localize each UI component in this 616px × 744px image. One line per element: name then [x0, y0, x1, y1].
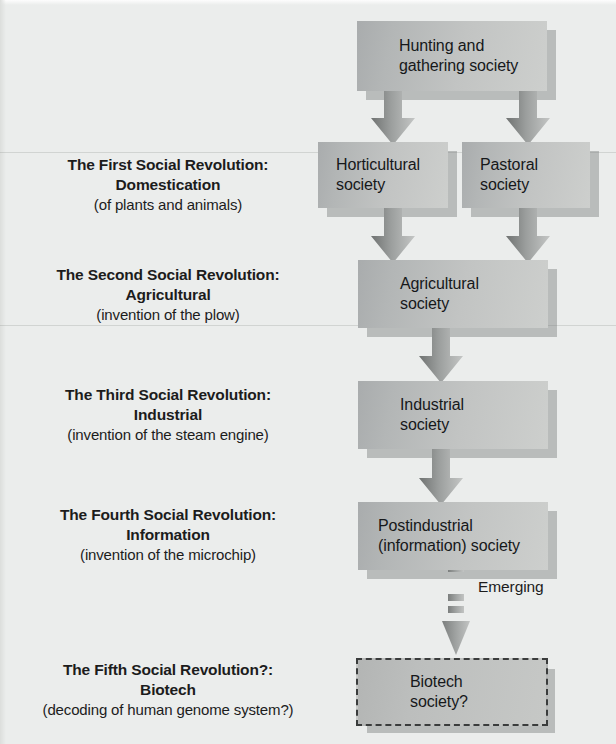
revolution-first-line2: Domestication [18, 175, 318, 195]
node-hunting-line1: Hunting and [399, 36, 547, 56]
revolution-fifth-line3: (decoding of human genome system?) [8, 700, 328, 720]
node-industrial-line2: society [400, 415, 548, 435]
emerging-connector-label: Emerging [478, 578, 544, 596]
revolution-first-line1: The First Social Revolution: [18, 155, 318, 175]
node-pastoral-line1: Pastoral [480, 155, 590, 175]
revolution-label-third: The Third Social Revolution: Industrial … [18, 385, 318, 445]
node-biotech-line2: society? [410, 692, 546, 712]
node-agricultural-line2: society [400, 294, 548, 314]
arrow-hunting-to-pastoral [505, 88, 551, 146]
node-biotech-society: Biotech society? [356, 658, 548, 726]
revolution-second-line3: (invention of the plow) [18, 305, 318, 325]
node-biotech-line1: Biotech [410, 672, 546, 692]
revolution-fifth-line1: The Fifth Social Revolution?: [8, 660, 328, 680]
revolution-third-line2: Industrial [18, 405, 318, 425]
revolution-second-line1: The Second Social Revolution: [18, 265, 318, 285]
revolution-fifth-line2: Biotech [8, 680, 328, 700]
node-pastoral-society: Pastoral society [462, 142, 590, 208]
node-hunting-line2: gathering society [399, 56, 547, 76]
revolution-third-line1: The Third Social Revolution: [18, 385, 318, 405]
revolution-fourth-line3: (invention of the microchip) [18, 545, 318, 565]
node-postindustrial-line1: Postindustrial [378, 516, 548, 536]
revolution-first-line3: (of plants and animals) [18, 195, 318, 215]
node-industrial-line1: Industrial [400, 395, 548, 415]
arrow-agricultural-to-industrial [418, 326, 464, 384]
social-revolutions-diagram: Emerging The First Social Revolution: Do… [0, 0, 616, 744]
revolution-third-line3: (invention of the steam engine) [18, 425, 318, 445]
arrow-industrial-to-postindustrial [418, 448, 464, 506]
revolution-label-second: The Second Social Revolution: Agricultur… [18, 265, 318, 325]
arrow-horticultural-to-agricultural [370, 206, 416, 264]
node-postindustrial-society: Postindustrial (information) society [358, 502, 548, 570]
arrow-hunting-to-horticultural [370, 88, 416, 146]
node-pastoral-line2: society [480, 175, 590, 195]
revolution-fourth-line1: The Fourth Social Revolution: [18, 505, 318, 525]
node-hunting-gathering-society: Hunting and gathering society [357, 21, 547, 91]
node-horticultural-line1: Horticultural [336, 155, 448, 175]
revolution-label-fifth: The Fifth Social Revolution?: Biotech (d… [8, 660, 328, 720]
revolution-fourth-line2: Information [18, 525, 318, 545]
revolution-label-fourth: The Fourth Social Revolution: Informatio… [18, 505, 318, 565]
revolution-second-line2: Agricultural [18, 285, 318, 305]
arrow-pastoral-to-agricultural [505, 206, 551, 264]
page-left-edge [0, 0, 6, 744]
revolution-label-first: The First Social Revolution: Domesticati… [18, 155, 318, 215]
node-agricultural-society: Agricultural society [358, 260, 548, 328]
page-top-edge [0, 0, 616, 5]
node-horticultural-society: Horticultural society [318, 142, 448, 208]
node-agricultural-line1: Agricultural [400, 274, 548, 294]
node-postindustrial-line2: (information) society [378, 536, 548, 556]
node-industrial-society: Industrial society [358, 381, 548, 449]
node-horticultural-line2: society [336, 175, 448, 195]
